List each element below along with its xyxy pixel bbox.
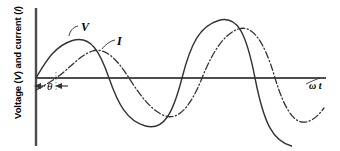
ac-voltage-current-phase-figure: Voltage (V) and current (I) V I xyxy=(0,0,340,151)
x-axis-label: ω t xyxy=(309,80,322,91)
voltage-curve-label: V xyxy=(81,20,89,35)
phase-angle-theta-label: θ xyxy=(47,80,52,92)
theta-dimension-right-arrow xyxy=(55,83,68,89)
current-curve-label: I xyxy=(117,34,122,49)
voltage-waveform-curve xyxy=(36,20,292,146)
voltage-label-leader-line xyxy=(69,26,78,36)
waveform-plot xyxy=(0,0,340,151)
current-waveform-curve xyxy=(36,28,324,122)
current-label-leader-line xyxy=(102,40,115,49)
